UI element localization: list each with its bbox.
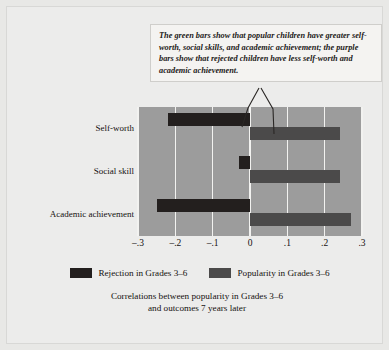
bar-group: [138, 193, 362, 236]
chart-caption: Correlations between popularity in Grade…: [47, 290, 347, 315]
caption-line-2: and outcomes 7 years later: [47, 302, 347, 314]
legend-label: Popularity in Grades 3–6: [237, 268, 329, 278]
bar: [239, 156, 250, 169]
category-axis-labels: Self-worth Social skill Academic achieve…: [7, 107, 134, 236]
axis-tick-label: 0: [248, 238, 253, 248]
rejection-swatch: [70, 268, 92, 278]
axis-tick-label: .2: [321, 238, 328, 248]
legend-label: Rejection in Grades 3–6: [98, 268, 187, 278]
bar-group: [138, 150, 362, 193]
bar: [157, 199, 250, 212]
axis-tick-label: .1: [284, 238, 291, 248]
value-axis: –.3–.2–.10.1.2.3: [138, 238, 362, 254]
category-label-self-worth: Self-worth: [10, 123, 134, 133]
figure-panel: The green bars show that popular childre…: [6, 6, 383, 344]
legend-item: Rejection in Grades 3–6: [70, 268, 187, 278]
legend-item: Popularity in Grades 3–6: [209, 268, 329, 278]
popularity-swatch: [209, 268, 231, 278]
axis-tick-label: –.3: [132, 238, 144, 248]
bar: [250, 213, 351, 226]
category-label-social-skill: Social skill: [10, 166, 134, 176]
axis-tick-label: –.2: [169, 238, 181, 248]
callout-annotation: The green bars show that popular childre…: [150, 24, 382, 82]
category-label-academic-achievement: Academic achievement: [10, 209, 134, 219]
legend: Rejection in Grades 3–6Popularity in Gra…: [35, 265, 365, 281]
axis-tick-label: –.1: [207, 238, 219, 248]
axis-tick-label: .3: [358, 238, 365, 248]
caption-line-1: Correlations between popularity in Grade…: [47, 290, 347, 302]
bar: [250, 170, 340, 183]
callout-pointer-lines: [212, 87, 312, 135]
